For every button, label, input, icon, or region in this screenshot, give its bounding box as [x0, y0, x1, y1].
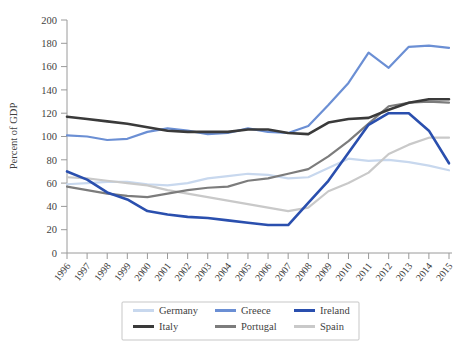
- y-tick-label: 120: [41, 108, 57, 119]
- legend-label-italy[interactable]: Italy: [159, 321, 179, 332]
- x-tick-group: 1996199719981999200020012002200320042005…: [52, 253, 455, 283]
- x-tick-label: 1997: [72, 260, 93, 283]
- x-tick-label: 2006: [253, 260, 274, 283]
- x-tick-label: 2005: [233, 260, 254, 283]
- y-tick-label: 140: [41, 85, 57, 96]
- x-tick-label: 2008: [293, 260, 314, 283]
- y-tick-label: 180: [41, 38, 57, 49]
- y-tick-group: 020406080100120140160180200: [41, 15, 67, 259]
- series-line-germany: [67, 159, 449, 186]
- x-tick-label: 2012: [373, 260, 394, 283]
- y-tick-label: 60: [47, 178, 58, 189]
- y-tick-label: 80: [47, 155, 58, 166]
- series-line-italy: [67, 99, 449, 134]
- x-tick-label: 2011: [353, 260, 374, 282]
- legend-label-greece[interactable]: Greece: [241, 305, 271, 316]
- x-tick-label: 2002: [172, 260, 193, 283]
- y-tick-label: 40: [47, 201, 58, 212]
- series-line-greece: [67, 46, 449, 140]
- x-tick-label: 1996: [52, 260, 73, 283]
- legend-label-portugal[interactable]: Portugal: [241, 321, 277, 332]
- x-tick-label: 2001: [152, 260, 173, 283]
- x-tick-label: 2000: [132, 260, 153, 283]
- legend-label-ireland[interactable]: Ireland: [320, 305, 350, 316]
- series-group: [67, 46, 449, 225]
- line-chart: 020406080100120140160180200 199619971998…: [0, 0, 474, 350]
- y-tick-label: 200: [41, 15, 57, 26]
- chart-container: 020406080100120140160180200 199619971998…: [0, 0, 474, 350]
- x-tick-label: 1999: [112, 260, 133, 283]
- legend-label-germany[interactable]: Germany: [159, 305, 199, 316]
- y-axis-title: Percent of GDP: [8, 103, 19, 170]
- chart-legend: GermanyGreeceIrelandItalyPortugalSpain: [122, 302, 359, 340]
- y-tick-label: 0: [52, 248, 57, 259]
- y-tick-label: 20: [47, 224, 58, 235]
- x-tick-label: 2003: [192, 260, 213, 283]
- x-tick-label: 2010: [333, 260, 354, 283]
- y-tick-label: 100: [41, 131, 57, 142]
- x-tick-label: 2007: [273, 260, 294, 283]
- y-tick-label: 160: [41, 61, 57, 72]
- x-tick-label: 1998: [92, 260, 113, 283]
- x-tick-label: 2013: [393, 260, 414, 283]
- x-tick-label: 2015: [434, 260, 455, 283]
- x-tick-label: 2014: [413, 260, 434, 283]
- x-tick-label: 2004: [212, 260, 233, 283]
- plot-area: 020406080100120140160180200 199619971998…: [41, 15, 454, 283]
- legend-label-spain[interactable]: Spain: [320, 321, 345, 332]
- x-tick-label: 2009: [313, 260, 334, 283]
